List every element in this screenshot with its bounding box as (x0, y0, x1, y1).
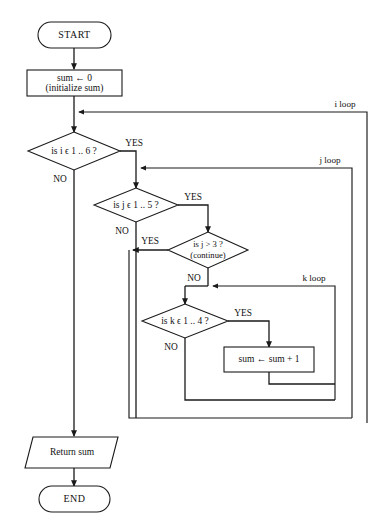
initialize-sum-line2: (initialize sum) (46, 83, 104, 94)
branch-label-i-yes: YES (125, 138, 143, 148)
node-decision-i[interactable]: is i ϵ 1 .. 6 ? (28, 132, 120, 170)
edge-i-yes (120, 151, 136, 188)
flowchart-canvas: START sum ← 0 (initialize sum) is i ϵ 1 … (0, 0, 387, 525)
initialize-sum-line1: sum ← 0 (57, 73, 92, 83)
node-accumulate-sum[interactable]: sum ← sum + 1 (224, 347, 314, 372)
decision-j-label: is j ϵ 1 .. 5 ? (113, 200, 159, 210)
rail-k-loop (213, 286, 335, 400)
edge-accumulate-to-k-rail (269, 372, 335, 384)
node-start[interactable]: START (38, 22, 111, 48)
node-initialize-sum[interactable]: sum ← 0 (initialize sum) (27, 70, 122, 96)
decision-continue-line2: (continue) (190, 250, 225, 260)
branch-label-j-no: NO (115, 226, 129, 236)
edge-k-yes (228, 321, 269, 347)
edge-j-yes (178, 205, 208, 232)
end-label: END (64, 493, 86, 504)
node-decision-continue[interactable]: is j > 3 ? (continue) (168, 232, 248, 268)
start-label: START (58, 29, 90, 40)
branch-label-k-no: NO (164, 342, 178, 352)
accumulate-sum-label: sum ← sum + 1 (239, 354, 300, 364)
branch-label-continue-no: NO (187, 273, 201, 283)
decision-continue-line1: is j > 3 ? (193, 239, 223, 249)
decision-k-label: is k ϵ 1 .. 4 ? (161, 316, 209, 326)
branch-label-k-yes: YES (234, 308, 252, 318)
node-return-sum[interactable]: Return sum (25, 437, 118, 468)
node-decision-j[interactable]: is j ϵ 1 .. 5 ? (94, 188, 178, 222)
loop-label-k: k loop (302, 273, 326, 283)
flowchart-svg: START sum ← 0 (initialize sum) is i ϵ 1 … (0, 0, 387, 525)
decision-i-label: is i ϵ 1 .. 6 ? (51, 146, 97, 156)
node-decision-k[interactable]: is k ϵ 1 .. 4 ? (142, 304, 228, 338)
branch-label-j-yes: YES (184, 192, 202, 202)
node-end[interactable]: END (39, 486, 110, 512)
branch-label-continue-yes: YES (141, 236, 159, 246)
branch-label-i-no: NO (53, 174, 67, 184)
loop-label-i: i loop (334, 99, 356, 109)
return-sum-label: Return sum (50, 447, 95, 457)
loop-label-j: j loop (318, 155, 341, 165)
